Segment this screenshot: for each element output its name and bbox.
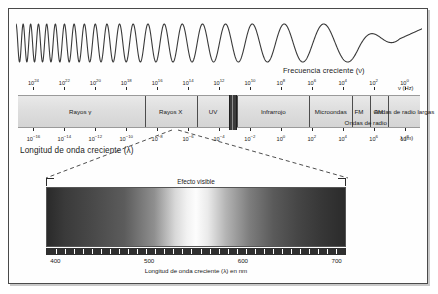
tick-mark [188,87,189,90]
tick-label: 102 [307,134,316,142]
wavelength-unit-label: λ (m) [400,135,413,141]
tick-label: 102 [369,78,378,86]
tick-label: 1020 [90,78,101,86]
visible-spectrum-inset: Efecto visible 400500600700 Longitud de … [46,178,346,276]
ruler-tick [155,249,156,254]
tick-mark [250,87,251,90]
tick-label: 1010 [244,78,255,86]
band-label: Rayos γ [69,108,91,115]
tick-mark [157,128,158,131]
tick-mark [64,128,65,131]
tick-mark [126,128,127,131]
ruler-tick [74,249,75,254]
tick-mark [95,87,96,90]
ruler-tick [119,249,120,254]
tick-mark [281,128,282,131]
ruler-tick [173,249,174,254]
tick-label: 106 [369,134,378,142]
band-label: FM [354,108,363,115]
tick-label: 106 [307,78,316,86]
tick-label: 10−2 [244,134,255,142]
band-divider [145,96,146,127]
electromagnetic-spectrum-figure: Frecuencia creciente (ν) 102410221020101… [0,0,438,294]
tick-mark [374,87,375,90]
ruler-tick [282,249,283,254]
inset-tick-label: 700 [331,257,341,264]
ruler-tick [128,249,129,254]
tick-mark [126,87,127,90]
tick-mark [157,87,158,90]
ruler-tick [255,249,256,254]
ruler-tick [92,249,93,254]
inset-x-axis-label: Longitud de onda creciente (λ) en nm [145,267,248,274]
ruler-tick [264,249,265,254]
tick-label: 1012 [213,78,224,86]
tick-label: 1018 [121,78,132,86]
tick-label: 10−4 [213,134,224,142]
ruler-tick [56,249,57,254]
ruler-tick [83,249,84,254]
tick-label: 1014 [183,78,194,86]
spectrum-band-bar: Rayos γRayos XUVInfrarrojoMicroondasFMAM… [18,95,420,128]
tick-mark [219,87,220,90]
tick-mark [33,128,34,131]
ruler-tick [237,249,238,254]
inset-tick-label: 400 [50,257,60,264]
ruler-tick [146,249,147,254]
ruler-tick [219,249,220,254]
band-divider [309,96,310,127]
ruler-tick [137,249,138,254]
band-divider [237,96,238,127]
tick-label: 10−8 [152,134,163,142]
tick-mark [343,128,344,131]
frequency-scale: 1024102210201018101610141012101010810610… [18,78,420,94]
visible-spectrum-gradient [46,187,346,247]
chirp-waveform [16,18,422,68]
tick-mark [219,128,220,131]
ruler-tick [101,249,102,254]
inset-tick-label: 600 [238,257,248,264]
inset-title: Efecto visible [177,178,215,185]
frequency-unit-label: ν (Hz) [398,85,413,91]
ruler-tick [164,249,165,254]
tick-label: 1016 [152,78,163,86]
ruler-tick [318,249,319,254]
ruler-tick [309,249,310,254]
band-label: Infrarrojo [261,108,286,115]
tick-mark [33,87,34,90]
band-label: Rayos X [159,108,182,115]
ruler-tick [246,249,247,254]
ruler-tick [336,249,337,254]
tick-mark [343,87,344,90]
tick-mark [374,128,375,131]
inset-ruler [46,248,346,255]
tick-label: 10−6 [182,134,193,142]
tick-label: 10−14 [58,134,72,142]
band-divider [197,96,198,127]
tick-mark [64,87,65,90]
ruler-tick [300,249,301,254]
frequency-axis-caption: Frecuencia creciente (ν) [283,66,365,75]
tick-mark [250,128,251,131]
ruler-tick [201,249,202,254]
band-label: UV [209,108,218,115]
ruler-tick [182,249,183,254]
ruler-tick [291,249,292,254]
tick-label: 10−10 [119,134,133,142]
ruler-tick [110,249,111,254]
wavelength-scale: 10−1610−1410−1210−1010−810−610−410−21001… [18,128,420,144]
tick-label: 108 [277,78,286,86]
ruler-tick [327,249,328,254]
tick-label: 10−16 [27,134,41,142]
ruler-tick [228,249,229,254]
tick-mark [95,128,96,131]
inset-corner-right [338,178,346,186]
band-label: Ondas de radio largas [373,108,434,115]
tick-label: 1024 [28,78,39,86]
tick-label: 10−12 [89,134,103,142]
band-label: Ondas de radio [345,119,387,126]
ruler-tick [210,249,211,254]
ruler-tick [191,249,192,254]
tick-label: 104 [338,78,347,86]
tick-mark [312,128,313,131]
